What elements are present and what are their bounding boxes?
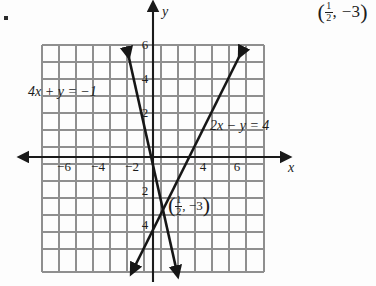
x-tick-label-6: 6 bbox=[232, 159, 242, 175]
y-tick-label--2: 2 bbox=[139, 183, 151, 199]
equation-label-line1: 4x + y = −1 bbox=[28, 84, 97, 100]
point-fraction-numerator: 1 bbox=[175, 195, 182, 207]
y-tick-label-2: 2 bbox=[139, 105, 151, 121]
exercise-page: (12, −3) bbox=[0, 0, 376, 286]
coordinate-plane bbox=[0, 0, 376, 286]
point-open-paren: ( bbox=[168, 192, 175, 217]
y-tick-label-6: 6 bbox=[139, 37, 151, 53]
x-tick-label--4: −4 bbox=[91, 159, 105, 175]
x-tick-label--6: −6 bbox=[57, 159, 71, 175]
y-tick-label-4: 4 bbox=[139, 71, 151, 87]
x-tick-label-4: 4 bbox=[198, 159, 208, 175]
point-fraction: 12 bbox=[175, 195, 182, 217]
y-tick-label--4: 4 bbox=[139, 217, 151, 233]
y-axis-label: y bbox=[162, 4, 168, 20]
point-close-paren: ) bbox=[203, 192, 210, 217]
point-comma: , bbox=[182, 198, 185, 213]
point-y-value: −3 bbox=[189, 198, 203, 213]
intersection-point-label: (12, −3) bbox=[168, 196, 210, 218]
x-axis-label: x bbox=[288, 160, 294, 176]
x-tick-label--2: −2 bbox=[125, 159, 139, 175]
equation-label-line2: 2x − y = 4 bbox=[210, 118, 269, 134]
point-fraction-denominator: 2 bbox=[175, 207, 182, 218]
